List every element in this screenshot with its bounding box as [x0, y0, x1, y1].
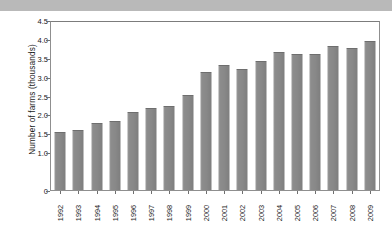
- bar-slot: [306, 22, 324, 190]
- bar: [328, 46, 339, 190]
- bar: [164, 106, 175, 190]
- x-tick-slot: 1993: [69, 191, 87, 237]
- y-tick-label: 3.0: [8, 73, 48, 82]
- x-tick-label: 2006: [311, 205, 320, 221]
- bar-slot: [197, 22, 215, 190]
- x-tick-slot: 2001: [215, 191, 233, 237]
- x-tick-slot: 2007: [324, 191, 342, 237]
- bar: [109, 121, 120, 190]
- x-tick-mark: [206, 191, 207, 194]
- x-tick-mark: [133, 191, 134, 194]
- bar-slot: [270, 22, 288, 190]
- bar: [255, 61, 266, 190]
- x-tick-mark: [297, 191, 298, 194]
- x-axis-ticks: 1992199319941995199619971998199920002001…: [51, 191, 379, 237]
- chart-figure: Number of organic farms in the UK, 1992-…: [0, 0, 392, 237]
- x-tick-label: 2009: [365, 205, 374, 221]
- x-tick-mark: [315, 191, 316, 194]
- x-tick-slot: 2009: [361, 191, 379, 237]
- x-tick-slot: 2006: [306, 191, 324, 237]
- bar-slot: [142, 22, 160, 190]
- x-tick-mark: [279, 191, 280, 194]
- x-tick-mark: [97, 191, 98, 194]
- x-tick-label: 2008: [347, 205, 356, 221]
- bar: [237, 69, 248, 190]
- x-tick-mark: [352, 191, 353, 194]
- x-tick-slot: 2000: [197, 191, 215, 237]
- y-tick-label: 1.0: [8, 149, 48, 158]
- y-tick-mark: [46, 191, 50, 192]
- y-tick-label: 3.5: [8, 54, 48, 63]
- bar: [219, 65, 230, 190]
- x-tick-mark: [261, 191, 262, 194]
- x-tick-label: 1999: [183, 205, 192, 221]
- bar-slot: [343, 22, 361, 190]
- x-tick-label: 1996: [128, 205, 137, 221]
- bar: [291, 54, 302, 190]
- x-tick-mark: [60, 191, 61, 194]
- x-tick-label: 2004: [274, 205, 283, 221]
- x-tick-label: 2005: [292, 205, 301, 221]
- bar-slot: [106, 22, 124, 190]
- x-tick-label: 1998: [165, 205, 174, 221]
- x-tick-slot: 2005: [288, 191, 306, 237]
- x-tick-mark: [333, 191, 334, 194]
- x-tick-slot: 2008: [343, 191, 361, 237]
- x-tick-slot: 1996: [124, 191, 142, 237]
- bar-slot: [124, 22, 142, 190]
- bar-slot: [215, 22, 233, 190]
- y-tick-label: 4.0: [8, 35, 48, 44]
- bar-slot: [69, 22, 87, 190]
- bar: [200, 72, 211, 190]
- x-tick-label: 2007: [329, 205, 338, 221]
- x-tick-mark: [188, 191, 189, 194]
- x-tick-label: 2003: [256, 205, 265, 221]
- bar-slot: [251, 22, 269, 190]
- bar-slot: [51, 22, 69, 190]
- x-tick-slot: 1999: [179, 191, 197, 237]
- bar-slot: [288, 22, 306, 190]
- bar-slot: [87, 22, 105, 190]
- x-tick-slot: 1995: [106, 191, 124, 237]
- bar: [273, 52, 284, 190]
- x-tick-mark: [78, 191, 79, 194]
- bar: [55, 132, 66, 190]
- x-tick-slot: 2003: [251, 191, 269, 237]
- bar: [127, 112, 138, 190]
- x-tick-mark: [224, 191, 225, 194]
- bar-slot: [361, 22, 379, 190]
- x-tick-label: 1992: [56, 205, 65, 221]
- x-tick-slot: 2002: [233, 191, 251, 237]
- x-tick-label: 2000: [201, 205, 210, 221]
- x-tick-slot: 2004: [270, 191, 288, 237]
- x-tick-slot: 1994: [87, 191, 105, 237]
- x-tick-mark: [242, 191, 243, 194]
- bar: [73, 130, 84, 190]
- y-tick-label: 1.5: [8, 130, 48, 139]
- x-tick-label: 2001: [220, 205, 229, 221]
- bar-slot: [179, 22, 197, 190]
- bar-slot: [233, 22, 251, 190]
- y-tick-label: 4.5: [8, 17, 48, 26]
- x-tick-mark: [169, 191, 170, 194]
- x-tick-mark: [370, 191, 371, 194]
- x-tick-label: 1997: [147, 205, 156, 221]
- x-tick-slot: 1998: [160, 191, 178, 237]
- x-tick-mark: [151, 191, 152, 194]
- y-tick-label: 0: [8, 187, 48, 196]
- bar: [182, 95, 193, 190]
- bar-series: [51, 22, 379, 190]
- bar-slot: [160, 22, 178, 190]
- x-tick-mark: [115, 191, 116, 194]
- bar: [310, 54, 321, 190]
- x-tick-label: 2002: [238, 205, 247, 221]
- y-tick-label: 2.0: [8, 111, 48, 120]
- cut-off-title-strip: Number of organic farms in the UK, 1992-…: [0, 0, 392, 11]
- bar: [146, 108, 157, 190]
- x-tick-label: 1995: [110, 205, 119, 221]
- bar-slot: [324, 22, 342, 190]
- bar: [91, 123, 102, 190]
- x-tick-slot: 1997: [142, 191, 160, 237]
- y-tick-label: 2.5: [8, 92, 48, 101]
- bar: [364, 41, 375, 190]
